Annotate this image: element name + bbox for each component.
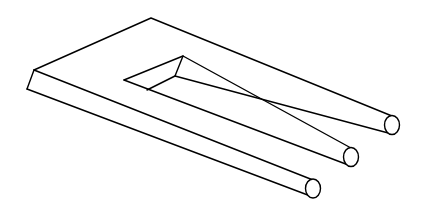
prong-top-end xyxy=(385,116,400,135)
slab-top-back-edge xyxy=(34,18,392,116)
impossible-trident-figure xyxy=(0,0,427,211)
notch-floor-edge xyxy=(147,76,392,134)
slab-left-face xyxy=(27,70,34,89)
prong-middle-end xyxy=(344,148,359,167)
notch-back-edge xyxy=(124,56,351,148)
prong-bottom-end xyxy=(306,179,321,198)
slab-front-top-edge xyxy=(34,70,313,180)
slab-front-bottom-edge xyxy=(27,89,313,197)
